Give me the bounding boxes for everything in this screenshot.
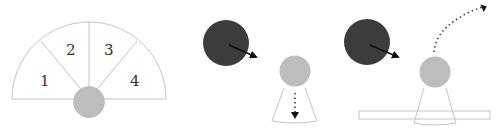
- sector-label-4: 4: [130, 72, 140, 90]
- light-ball: [420, 57, 451, 88]
- platform-bar: [359, 111, 490, 119]
- dark-ball: [344, 19, 390, 65]
- light-ball: [280, 56, 311, 87]
- panel-occluder-deflect: [344, 4, 490, 125]
- light-ball: [74, 87, 105, 118]
- sector-label-1: 1: [40, 72, 50, 90]
- panel-sector-layout: 1 2 3 4: [12, 22, 166, 118]
- arrowhead-down-icon: [291, 112, 299, 119]
- panel-occluder-falling: [203, 20, 317, 123]
- sector-label-3: 3: [104, 41, 114, 59]
- dotted-arc-arrow: [434, 7, 482, 52]
- diagram-canvas: 1 2 3 4: [0, 0, 504, 131]
- sector-label-2: 2: [66, 41, 76, 59]
- dark-ball: [203, 20, 249, 66]
